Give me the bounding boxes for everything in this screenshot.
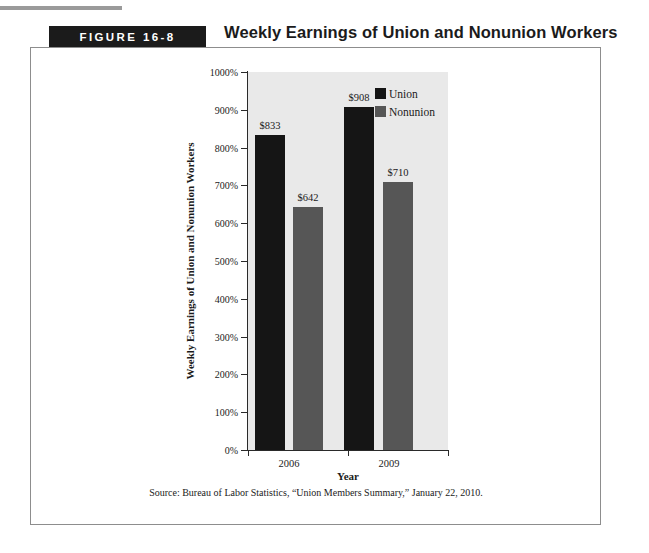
figure-frame [30, 47, 601, 525]
top-decorative-rule [0, 6, 122, 10]
figure-number-badge: FIGURE 16-8 [49, 26, 206, 47]
source-note: Source: Bureau of Labor Statistics, “Uni… [149, 487, 483, 498]
figure-title: Weekly Earnings of Union and Nonunion Wo… [224, 23, 618, 42]
